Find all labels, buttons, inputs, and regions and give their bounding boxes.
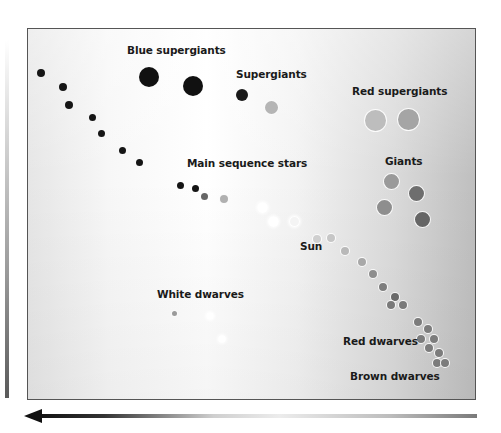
star-main-sequence <box>65 101 73 109</box>
label-red-dwarves: Red dwarves <box>343 335 418 347</box>
star-blue-supergiants <box>183 76 203 96</box>
label-white-dwarves: White dwarves <box>157 288 244 300</box>
hr-diagram: Blue supergiants Supergiants Red supergi… <box>0 0 501 433</box>
star-main-sequence <box>434 348 444 358</box>
star-main-sequence <box>201 193 208 200</box>
star-main-sequence <box>177 182 184 189</box>
label-supergiants: Supergiants <box>236 68 307 80</box>
star-main-sequence <box>89 114 96 121</box>
star-main-sequence <box>192 185 199 192</box>
star-red-supergiants <box>364 109 387 132</box>
star-supergiants <box>264 100 279 115</box>
star-main-sequence <box>424 343 434 353</box>
star-main-sequence <box>326 233 336 243</box>
star-main-sequence <box>289 216 300 227</box>
star-giants <box>376 199 393 216</box>
star-main-sequence <box>413 317 423 327</box>
star-main-sequence <box>440 358 450 368</box>
star-supergiants <box>236 89 248 101</box>
star-main-sequence <box>398 300 408 310</box>
star-main-sequence <box>423 324 433 334</box>
star-main-sequence <box>357 257 367 267</box>
star-main-sequence <box>219 194 229 204</box>
star-white-dwarves <box>218 335 226 343</box>
star-main-sequence <box>386 300 396 310</box>
luminosity-axis-bar <box>5 40 9 398</box>
star-main-sequence <box>378 282 388 292</box>
temperature-axis-arrow <box>24 412 477 420</box>
star-main-sequence <box>119 147 126 154</box>
label-giants: Giants <box>385 155 422 167</box>
label-red-supergiants: Red supergiants <box>352 85 447 97</box>
star-giants <box>383 173 400 190</box>
star-white-dwarves <box>171 310 178 317</box>
star-main-sequence <box>257 202 268 213</box>
star-giants <box>414 211 431 228</box>
label-brown-dwarves: Brown dwarves <box>350 370 440 382</box>
star-red-supergiants <box>397 108 420 131</box>
star-blue-supergiants <box>139 67 159 87</box>
star-giants <box>408 185 425 202</box>
star-main-sequence <box>368 269 378 279</box>
label-blue-supergiants: Blue supergiants <box>127 44 226 56</box>
star-main-sequence <box>98 130 105 137</box>
arrow-shaft <box>38 414 477 418</box>
label-main-sequence: Main sequence stars <box>187 157 307 169</box>
star-main-sequence <box>37 69 45 77</box>
star-main-sequence <box>340 246 350 256</box>
star-main-sequence <box>268 216 279 227</box>
star-main-sequence <box>136 159 143 166</box>
star-main-sequence <box>59 83 67 91</box>
label-sun: Sun <box>300 240 322 252</box>
arrow-left-icon <box>24 409 42 423</box>
star-white-dwarves <box>206 312 214 320</box>
